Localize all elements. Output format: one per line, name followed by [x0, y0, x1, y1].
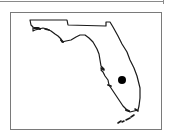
- florida-map: Florida: [0, 0, 173, 140]
- location-marker: [118, 76, 126, 84]
- florida-keys: [118, 115, 134, 123]
- florida-outline: [30, 20, 140, 112]
